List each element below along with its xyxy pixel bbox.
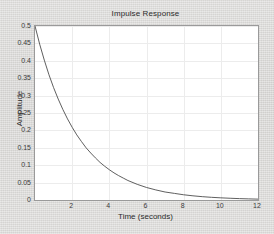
y-tick-label: 0.1 <box>7 161 31 168</box>
y-tick-label: 0.45 <box>7 39 31 46</box>
y-tick-label: 0.4 <box>7 56 31 63</box>
y-axis-label: Amplitude <box>15 64 24 154</box>
x-tick-label: 10 <box>210 202 230 209</box>
x-tick-label: 6 <box>136 202 156 209</box>
grid-lines <box>35 26 258 200</box>
series-line <box>35 26 258 199</box>
y-tick-label: 0 <box>7 196 31 203</box>
x-tick-label: 4 <box>98 202 118 209</box>
plot-canvas <box>35 26 258 200</box>
x-tick-label: 2 <box>61 202 81 209</box>
data-series-group <box>35 26 258 199</box>
x-axis-tick-labels: 24681012 <box>34 200 257 212</box>
x-tick-label: 12 <box>247 202 267 209</box>
y-tick-label: 0.05 <box>7 178 31 185</box>
y-tick-label: 0.5 <box>7 22 31 29</box>
chart-title: Impulse Response <box>34 9 257 18</box>
plot-area <box>34 25 259 201</box>
x-axis-label: Time (seconds) <box>34 212 257 221</box>
x-tick-label: 8 <box>173 202 193 209</box>
impulse-response-figure: Impulse Response 00.050.10.150.20.250.30… <box>0 0 274 234</box>
